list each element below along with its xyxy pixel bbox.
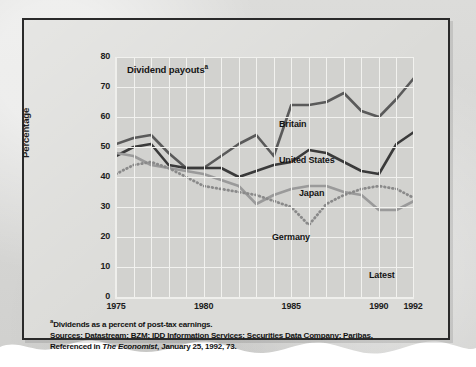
gridline-v-1981 — [221, 57, 222, 297]
chart-frame-inner: Percentage 80 70 60 50 40 30 20 10 0 — [24, 20, 448, 338]
gridline-h-80 — [116, 57, 414, 58]
y-axis-ticks: 80 70 60 50 40 30 20 10 0 — [82, 20, 110, 342]
y-tick-20: 20 — [100, 232, 110, 241]
gridline-v-1988 — [344, 57, 345, 297]
gridline-v-1986 — [309, 57, 310, 297]
series-label-united-states: United States — [279, 155, 335, 165]
gridline-h-50 — [116, 147, 414, 148]
footnote-line-1-text: Dividends as a percent of post-tax earni… — [53, 320, 212, 329]
chart-title-text: Dividend payouts — [127, 64, 205, 75]
x-tick-1992: 1992 — [403, 301, 422, 311]
footnote-line-3-pre: Referenced in — [50, 342, 102, 351]
footnote-publication: The Economist — [102, 342, 157, 351]
gridline-h-10 — [116, 267, 414, 268]
line-japan — [116, 153, 414, 210]
chart-title: Dividend payoutsa — [127, 63, 208, 75]
footnote-line-3-post: , January 25, 1992, 73. — [157, 342, 236, 351]
x-tick-1980: 1980 — [194, 301, 213, 311]
latest-annotation: Latest — [369, 270, 395, 280]
y-tick-70: 70 — [100, 82, 110, 91]
y-axis-label: Percentage — [20, 108, 31, 158]
gridline-h-40 — [116, 177, 414, 178]
y-tick-30: 30 — [100, 202, 110, 211]
gridline-v-1980 — [204, 57, 205, 297]
gridline-v-1989 — [361, 57, 362, 297]
y-tick-60: 60 — [100, 112, 110, 121]
x-axis-line — [115, 297, 414, 299]
gridline-v-1979 — [186, 57, 187, 297]
gridline-h-70 — [116, 87, 414, 88]
gridline-v-1991 — [396, 57, 397, 297]
footnote-line-2: Sources: Datastream; BZM; IDD Informatio… — [50, 330, 440, 341]
gridline-v-1983 — [256, 57, 257, 297]
series-label-japan: Japan — [299, 188, 324, 198]
gridline-h-30 — [116, 207, 414, 208]
x-tick-1975: 1975 — [106, 301, 125, 311]
gridline-v-1984 — [274, 57, 275, 297]
gridline-v-1992 — [413, 57, 414, 297]
y-tick-10: 10 — [100, 262, 110, 271]
y-tick-40: 40 — [100, 172, 110, 181]
x-tick-1985: 1985 — [282, 301, 301, 311]
y-tick-80: 80 — [100, 52, 110, 61]
line-united-states — [116, 132, 414, 177]
gridline-v-1978 — [169, 57, 170, 297]
gridline-v-1976 — [134, 57, 135, 297]
plot-area — [116, 57, 414, 297]
footnote-line-3: Referenced in The Economist, January 25,… — [50, 341, 440, 352]
chart-frame: Percentage 80 70 60 50 40 30 20 10 0 — [22, 18, 450, 340]
x-tick-1990: 1990 — [369, 301, 388, 311]
gridline-v-1990 — [379, 57, 380, 297]
gridline-h-60 — [116, 117, 414, 118]
gridline-v-1985 — [291, 57, 292, 297]
gridline-v-1982 — [239, 57, 240, 297]
y-tick-0: 0 — [105, 292, 110, 301]
footnote-line-1: aDividends as a percent of post-tax earn… — [50, 316, 440, 330]
series-label-germany: Germany — [272, 232, 310, 242]
gridline-h-20 — [116, 237, 414, 238]
y-tick-50: 50 — [100, 142, 110, 151]
footnote: aDividends as a percent of post-tax earn… — [50, 316, 440, 353]
gridline-v-1987 — [326, 57, 327, 297]
chart-title-superscript: a — [205, 63, 209, 70]
series-label-britain: Britain — [279, 119, 306, 129]
gridline-v-1977 — [151, 57, 152, 297]
y-axis-line — [115, 57, 117, 298]
